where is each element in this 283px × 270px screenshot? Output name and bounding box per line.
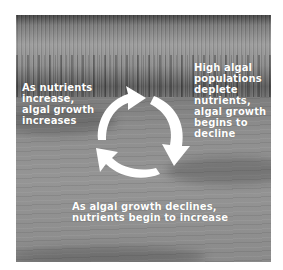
label-algal-decline: High algal populations deplete nutrients… <box>194 62 274 139</box>
cycle-arrow-right-icon <box>150 96 190 166</box>
water-shade <box>16 247 206 262</box>
cycle-arrow-top-icon <box>98 86 146 140</box>
nutrient-cycle-arrows <box>88 82 198 182</box>
label-nutrients-increase: As nutrients increase, algal growth incr… <box>22 82 102 126</box>
cycle-arrow-bottom-icon <box>96 148 160 178</box>
label-nutrients-recover: As algal growth declines, nutrients begi… <box>72 201 242 223</box>
